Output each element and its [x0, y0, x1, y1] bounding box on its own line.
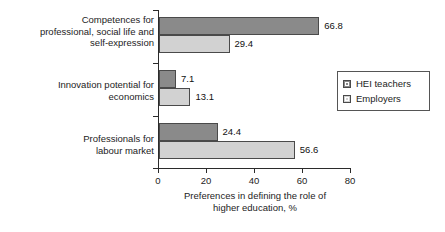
bar-value-employers-professionals: 56.6: [300, 144, 319, 155]
bar-hei-professionals: [159, 123, 218, 141]
horizontal-bar-chart: Competences for professional, social lif…: [0, 0, 445, 232]
category-label-innovation: Innovation potential for economics: [58, 79, 154, 102]
y-axis-tick: [153, 63, 159, 64]
bar-employers-professionals: [159, 141, 295, 159]
legend-label-employers: Employers: [356, 93, 401, 104]
category-label-professionals: Professionals for labour market: [83, 133, 154, 156]
bar-hei-innovation: [159, 70, 176, 88]
legend-item-employers[interactable]: Employers: [343, 91, 425, 106]
x-axis-tick-label-0: 0: [143, 175, 173, 186]
x-axis-tick: [206, 168, 207, 173]
x-axis-tick: [302, 168, 303, 173]
category-label-competences: Competences for professional, social lif…: [40, 14, 154, 49]
bar-value-hei-competences: 66.8: [324, 20, 343, 31]
x-axis-tick: [350, 168, 351, 173]
x-axis-tick-label-80: 80: [335, 175, 365, 186]
legend-item-hei-teachers[interactable]: HEI teachers: [343, 76, 425, 91]
legend-label-hei-teachers: HEI teachers: [356, 78, 411, 89]
x-axis-tick-label-40: 40: [239, 175, 269, 186]
bar-hei-competences: [159, 17, 319, 35]
x-axis-tick: [158, 168, 159, 173]
y-axis-tick: [153, 116, 159, 117]
bar-employers-competences: [159, 35, 230, 53]
x-axis-tick-label-20: 20: [191, 175, 221, 186]
x-axis-title: Preferences in defining the role of high…: [110, 190, 400, 214]
bar-value-hei-professionals: 24.4: [223, 126, 242, 137]
bar-value-hei-innovation: 7.1: [181, 73, 194, 84]
x-axis-tick: [254, 168, 255, 173]
bar-employers-innovation: [159, 88, 190, 106]
y-axis-tick: [153, 10, 159, 11]
light-gray-swatch-icon: [343, 95, 351, 103]
bar-value-employers-innovation: 13.1: [195, 91, 214, 102]
dark-gray-swatch-icon: [343, 80, 351, 88]
x-axis-tick-label-60: 60: [287, 175, 317, 186]
chart-legend: HEI teachers Employers: [337, 71, 430, 111]
bar-value-employers-competences: 29.4: [235, 38, 254, 49]
